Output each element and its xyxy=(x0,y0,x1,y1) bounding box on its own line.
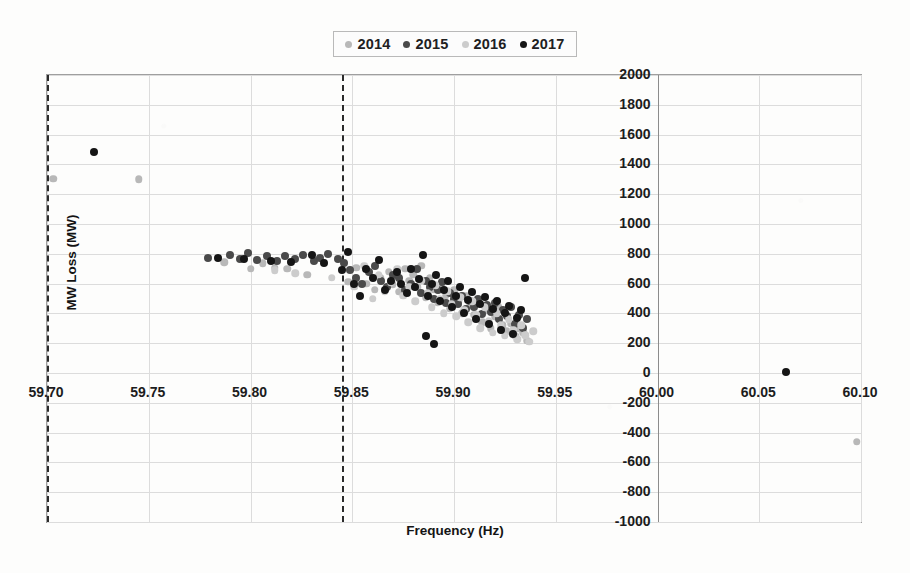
legend-marker-icon xyxy=(462,41,469,48)
data-point-2017 xyxy=(387,277,395,285)
data-point-2017 xyxy=(448,303,456,311)
data-point-2016 xyxy=(412,298,420,306)
dashed-line-right xyxy=(342,75,344,522)
gridline-vertical xyxy=(861,75,862,522)
data-point-2014 xyxy=(247,265,255,273)
data-point-2016 xyxy=(464,319,472,327)
y-axis-tick-label: 400 xyxy=(591,304,651,320)
data-point-2016 xyxy=(369,295,377,303)
y-axis-tick-label: 600 xyxy=(591,275,651,291)
dashed-line-left xyxy=(47,75,49,522)
data-point-2014 xyxy=(49,175,57,183)
gridline-vertical xyxy=(556,75,557,522)
y-axis-tick-label: -400 xyxy=(591,424,651,440)
data-point-2016 xyxy=(526,338,534,346)
data-point-2016 xyxy=(428,304,436,312)
data-point-2017 xyxy=(464,296,472,304)
plot-area xyxy=(46,74,862,523)
data-point-2015 xyxy=(226,251,234,259)
data-point-2015 xyxy=(299,251,307,259)
data-point-2017 xyxy=(411,283,419,291)
y-axis-tick-label: 200 xyxy=(591,334,651,350)
y-axis-tick-label: 0 xyxy=(591,364,651,380)
data-point-2017 xyxy=(407,265,415,273)
data-point-2016 xyxy=(440,310,448,318)
data-point-2017 xyxy=(369,274,377,282)
data-point-2014 xyxy=(283,265,291,273)
x-axis-tick-label: 59.85 xyxy=(334,384,369,400)
x-axis-tick-label: 59.70 xyxy=(28,384,63,400)
y-axis-tick-label: 1600 xyxy=(591,126,651,142)
legend-item-2017: 2017 xyxy=(520,36,565,52)
data-point-2017 xyxy=(517,306,525,314)
data-point-2014 xyxy=(371,286,379,294)
data-point-2017 xyxy=(375,256,383,264)
legend-label: 2017 xyxy=(532,36,565,52)
x-axis-tick-label: 60.10 xyxy=(842,384,877,400)
data-point-2017 xyxy=(513,314,521,322)
data-point-2017 xyxy=(430,340,438,348)
data-point-2014 xyxy=(853,438,861,446)
data-point-2017 xyxy=(489,305,497,313)
data-point-2017 xyxy=(422,332,430,340)
data-point-2017 xyxy=(338,266,346,274)
data-point-2017 xyxy=(501,309,509,317)
data-point-2016 xyxy=(477,325,485,333)
y-axis-title: MW Loss (MW) xyxy=(64,215,79,311)
y-axis-tick-label: 800 xyxy=(591,245,651,261)
data-point-2016 xyxy=(271,266,279,274)
data-point-2017 xyxy=(497,326,505,334)
data-point-2015 xyxy=(358,280,366,288)
data-point-2014 xyxy=(135,176,143,184)
data-point-2017 xyxy=(476,300,484,308)
chart-legend: 2014201520162017 xyxy=(333,31,577,57)
data-point-2017 xyxy=(308,251,316,259)
gridline-vertical xyxy=(352,75,353,522)
x-axis-tick-label: 59.80 xyxy=(232,384,267,400)
data-point-2016 xyxy=(292,270,300,278)
data-point-2015 xyxy=(324,250,332,258)
data-point-2017 xyxy=(509,330,517,338)
data-point-2017 xyxy=(782,368,790,376)
data-point-2017 xyxy=(424,292,432,300)
x-axis-tick-label: 59.75 xyxy=(130,384,165,400)
data-point-2016 xyxy=(517,322,525,330)
legend-marker-icon xyxy=(403,41,410,48)
legend-marker-icon xyxy=(345,41,352,48)
data-point-2015 xyxy=(253,256,261,264)
data-point-2017 xyxy=(344,248,352,256)
legend-item-2016: 2016 xyxy=(462,36,507,52)
legend-item-2014: 2014 xyxy=(345,36,390,52)
data-point-2017 xyxy=(393,268,401,276)
data-point-2017 xyxy=(481,293,489,301)
data-point-2017 xyxy=(362,265,370,273)
data-point-2017 xyxy=(350,280,358,288)
data-point-2016 xyxy=(489,329,497,337)
data-point-2017 xyxy=(267,257,275,265)
y-axis-tick-label: -1000 xyxy=(591,513,651,529)
data-point-2016 xyxy=(328,274,336,282)
data-point-2017 xyxy=(397,280,405,288)
gridline-vertical xyxy=(759,75,760,522)
x-axis-tick-label: 59.90 xyxy=(435,384,470,400)
data-point-2017 xyxy=(505,302,513,310)
data-point-2017 xyxy=(381,286,389,294)
data-point-2017 xyxy=(436,297,444,305)
data-point-2017 xyxy=(90,148,98,156)
data-point-2017 xyxy=(320,259,328,267)
x-axis-tick-label: 60.05 xyxy=(741,384,776,400)
data-point-2017 xyxy=(493,297,501,305)
x-axis-tick-label: 59.95 xyxy=(537,384,572,400)
legend-label: 2014 xyxy=(357,36,390,52)
y-axis-tick-label: 1400 xyxy=(591,155,651,171)
x-axis-tick-label: 60.00 xyxy=(639,384,674,400)
y-axis-tick-label: 1000 xyxy=(591,215,651,231)
y-axis-tick-label: -600 xyxy=(591,453,651,469)
data-point-2017 xyxy=(452,292,460,300)
data-point-2017 xyxy=(444,277,452,285)
data-point-2017 xyxy=(485,320,493,328)
data-point-2017 xyxy=(521,274,529,282)
data-point-2017 xyxy=(214,254,222,262)
gridline-vertical xyxy=(251,75,252,522)
data-point-2017 xyxy=(287,258,295,266)
